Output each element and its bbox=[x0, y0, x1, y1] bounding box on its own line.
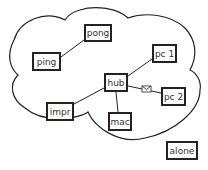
node-label: ping bbox=[37, 57, 57, 67]
node-pong[interactable]: pong bbox=[84, 24, 112, 42]
node-label: impr bbox=[50, 107, 71, 117]
node-mac[interactable]: mac bbox=[108, 112, 132, 131]
node-label: pong bbox=[87, 28, 110, 38]
node-ping[interactable]: ping bbox=[32, 52, 61, 71]
node-pc2[interactable]: pc 2 bbox=[161, 87, 186, 106]
node-label: mac bbox=[110, 117, 129, 127]
node-label: pc 2 bbox=[164, 92, 183, 102]
node-pc1[interactable]: pc 1 bbox=[152, 44, 177, 63]
node-alone[interactable]: alone bbox=[166, 141, 198, 160]
envelope-icon bbox=[142, 86, 151, 92]
node-hub[interactable]: hub bbox=[104, 73, 128, 92]
node-impr[interactable]: impr bbox=[46, 102, 74, 121]
node-label: alone bbox=[170, 146, 195, 156]
node-label: pc 1 bbox=[155, 49, 174, 59]
node-label: hub bbox=[107, 78, 124, 88]
